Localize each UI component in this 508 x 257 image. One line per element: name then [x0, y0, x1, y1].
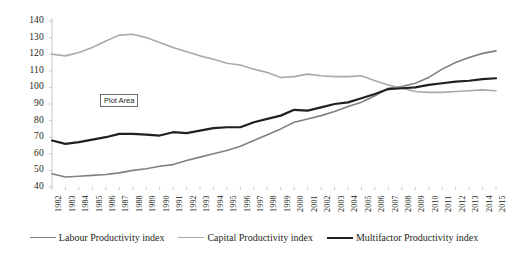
legend-label: Capital Productivity index	[207, 232, 313, 243]
x-axis-tick-label: 2015	[499, 195, 507, 212]
x-axis-tick-label: 1991	[176, 195, 184, 212]
x-axis-tick-label: 2011	[445, 196, 453, 212]
x-axis-tick-label: 1997	[257, 195, 265, 212]
x-axis-tick-label: 1989	[149, 195, 157, 212]
series-line-1	[52, 34, 496, 92]
x-axis-tick-label: 1985	[96, 195, 104, 212]
x-axis-tick-label: 1999	[284, 195, 292, 212]
x-axis-tick-label: 1987	[122, 195, 130, 212]
productivity-index-line-chart: 405060708090100110120130140 198219831984…	[0, 0, 508, 257]
plot-area	[0, 0, 508, 257]
x-axis-tick-label: 2009	[418, 195, 426, 212]
plot-area-tooltip: Plot Area	[100, 94, 138, 107]
x-axis-tick-label: 1992	[190, 195, 198, 212]
x-axis-tick-label: 1986	[109, 195, 117, 212]
x-axis-tick-label: 1995	[230, 195, 238, 212]
x-axis-tick-label: 2012	[459, 195, 467, 212]
x-axis-tick-label: 1983	[69, 195, 77, 212]
x-axis-tick-label: 2014	[486, 195, 494, 212]
x-axis-tick-label: 2000	[297, 195, 305, 212]
x-axis-tick-label: 1993	[203, 195, 211, 212]
chart-legend: Labour Productivity indexCapital Product…	[0, 232, 508, 243]
legend-swatch-icon	[178, 237, 204, 238]
legend-item[interactable]: Labour Productivity index	[30, 232, 165, 243]
x-axis-tick-label: 2003	[338, 195, 346, 212]
legend-swatch-icon	[30, 237, 56, 238]
series-line-0	[52, 51, 496, 177]
legend-label: Multifactor Productivity index	[356, 232, 478, 243]
legend-item[interactable]: Capital Productivity index	[178, 232, 313, 243]
series-line-2	[52, 78, 496, 144]
legend-label: Labour Productivity index	[59, 232, 165, 243]
x-axis-tick-label: 1984	[82, 195, 90, 212]
x-axis-tick-label: 2008	[405, 195, 413, 212]
x-axis-tick-label: 2001	[311, 195, 319, 212]
x-axis-tick-label: 1994	[217, 195, 225, 212]
x-axis-tick-label: 2010	[432, 195, 440, 212]
x-axis-tick-label: 1982	[55, 195, 63, 212]
x-axis-tick-label: 2007	[392, 195, 400, 212]
x-axis-tick-label: 2013	[472, 195, 480, 212]
x-axis-tick-label: 1998	[270, 195, 278, 212]
x-axis-tick-label: 2006	[378, 195, 386, 212]
x-axis-tick-label: 1990	[163, 195, 171, 212]
x-axis-tick-label: 1996	[244, 195, 252, 212]
x-axis-tick-label: 2005	[365, 195, 373, 212]
legend-swatch-icon	[327, 237, 353, 239]
x-axis-tick-label: 1988	[136, 195, 144, 212]
legend-item[interactable]: Multifactor Productivity index	[327, 232, 478, 243]
x-axis-tick-label: 2004	[351, 195, 359, 212]
x-axis-tick-label: 2002	[324, 195, 332, 212]
